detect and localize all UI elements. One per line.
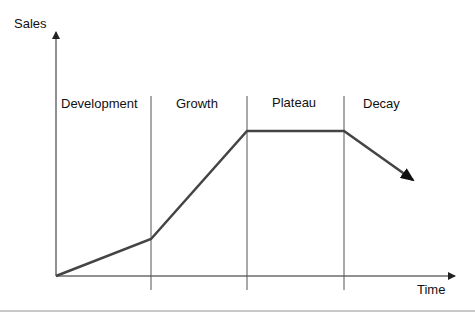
- phase-label-growth: Growth: [176, 96, 218, 111]
- y-axis-label: Sales: [14, 16, 47, 31]
- phase-label-plateau: Plateau: [272, 95, 316, 110]
- product-lifecycle-diagram: [0, 0, 475, 313]
- phase-label-decay: Decay: [363, 96, 400, 111]
- bottom-border: [0, 310, 475, 312]
- phase-label-development: Development: [61, 96, 138, 111]
- x-axis-label: Time: [417, 282, 445, 297]
- sales-curve: [56, 131, 413, 276]
